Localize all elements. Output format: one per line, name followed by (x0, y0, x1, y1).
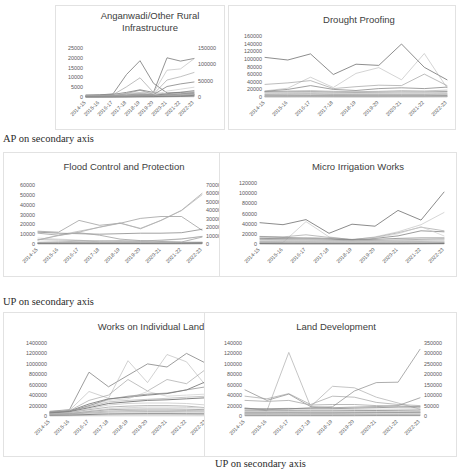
plot-area-anganwadi: Anganwadi/Other Rural Infrastructure 050… (56, 6, 224, 129)
x-axis-tick-label: 2019-20 (358, 246, 376, 264)
x-axis-tick-label: 2018-19 (315, 418, 333, 436)
x-axis-tick-label: 2022-23 (185, 246, 203, 264)
series-line (50, 353, 206, 411)
series-line (265, 74, 447, 89)
x-axis-tick-label: 2015-16 (52, 418, 70, 436)
plot-area-micro: Micro Irrigation Works 02000040000600008… (220, 153, 456, 276)
svg-text:50000: 50000 (424, 403, 439, 409)
svg-text:200000: 200000 (424, 371, 442, 377)
svg-text:100000: 100000 (244, 56, 262, 62)
svg-text:20000: 20000 (20, 221, 35, 227)
chart-svg-micro: 0200004000060000800001000001200002014-15… (220, 153, 458, 278)
x-axis-tick-label: 2019-20 (337, 418, 355, 436)
x-axis-tick-label: 2016-17 (272, 418, 290, 436)
x-axis-tick-label: 2018-19 (339, 99, 357, 117)
svg-text:600000: 600000 (29, 382, 47, 388)
svg-text:40000: 40000 (227, 392, 242, 398)
plot-area-flood: Flood Control and Protection 01000020000… (4, 153, 234, 276)
svg-text:40000: 40000 (247, 79, 262, 85)
svg-text:20000: 20000 (247, 86, 262, 92)
svg-text:0: 0 (424, 413, 427, 419)
svg-text:300000: 300000 (424, 350, 442, 356)
x-axis-tick-label: 2019-20 (130, 418, 148, 436)
svg-text:50000: 50000 (20, 192, 35, 198)
svg-text:100000: 100000 (198, 61, 216, 67)
chart-panel-individual-land: Works on Individual Land 020000040000060… (3, 312, 235, 457)
svg-text:20000: 20000 (68, 55, 83, 61)
chart-svg-drought: 0200004000060000800001000001200001400001… (229, 6, 457, 131)
svg-text:400000: 400000 (29, 392, 47, 398)
x-axis-tick-label: 2021-22 (381, 418, 399, 436)
svg-text:100000: 100000 (239, 190, 257, 196)
svg-text:150000: 150000 (198, 45, 216, 51)
x-axis-tick-label: 2016-17 (289, 246, 307, 264)
x-axis-tick-label: 2018-19 (103, 246, 121, 264)
svg-text:150000: 150000 (424, 382, 442, 388)
chart-svg-land-development: 0200004000060000800001000001200001400000… (205, 313, 458, 458)
x-axis-tick-label: 2020-21 (381, 246, 399, 264)
x-axis-tick-label: 2018-19 (111, 418, 129, 436)
x-axis-tick-label: 2015-16 (250, 418, 268, 436)
svg-text:60000: 60000 (242, 211, 257, 217)
chart-panel-micro: Micro Irrigation Works 02000040000600008… (219, 152, 457, 277)
figure-root: Anganwadi/Other Rural Infrastructure 050… (0, 0, 460, 472)
plot-area-drought: Drought Proofing 02000040000600008000010… (229, 6, 455, 129)
x-axis-tick-label: 2014-15 (248, 99, 266, 117)
series-line (245, 411, 420, 412)
series-line (245, 410, 420, 411)
caption-row3: UP on secondary axis (215, 458, 306, 469)
x-axis-tick-label: 2020-21 (359, 418, 377, 436)
svg-text:10000: 10000 (20, 231, 35, 237)
svg-text:0: 0 (198, 94, 201, 100)
chart-panel-land-development: Land Development 02000040000600008000010… (204, 312, 457, 457)
series-line (245, 349, 420, 409)
x-axis-tick-label: 2022-23 (427, 246, 445, 264)
x-axis-tick-label: 2014-15 (33, 418, 51, 436)
x-axis-tick-label: 2020-21 (384, 99, 402, 117)
x-axis-tick-label: 2022-23 (403, 418, 421, 436)
svg-text:160000: 160000 (244, 33, 262, 39)
x-axis-tick-label: 2022-23 (177, 99, 195, 117)
x-axis-tick-label: 2017-18 (312, 246, 330, 264)
x-axis-tick-label: 2017-18 (82, 246, 100, 264)
svg-text:100000: 100000 (224, 361, 242, 367)
x-axis-tick-label: 2016-17 (72, 418, 90, 436)
svg-text:20000: 20000 (242, 231, 257, 237)
x-axis-tick-label: 2015-16 (266, 246, 284, 264)
x-axis-tick-label: 2021-22 (407, 99, 425, 117)
svg-text:15000: 15000 (68, 65, 83, 71)
svg-text:20000: 20000 (227, 403, 242, 409)
svg-text:40000: 40000 (20, 202, 35, 208)
svg-text:120000: 120000 (239, 180, 257, 186)
x-axis-tick-label: 2015-16 (271, 99, 289, 117)
x-axis-tick-label: 2015-16 (41, 246, 59, 264)
x-axis-tick-label: 2014-15 (243, 246, 261, 264)
x-axis-tick-label: 2020-21 (144, 246, 162, 264)
x-axis-tick-label: 2021-22 (164, 246, 182, 264)
caption-row2: UP on secondary axis (3, 296, 94, 307)
svg-text:200000: 200000 (29, 403, 47, 409)
chart-svg-individual-land: 0200000400000600000800000100000012000001… (4, 313, 236, 458)
x-axis-tick-label: 2014-15 (21, 246, 39, 264)
x-axis-tick-label: 2016-17 (293, 99, 311, 117)
x-axis-tick-label: 2021-22 (169, 418, 187, 436)
svg-text:60000: 60000 (20, 182, 35, 188)
svg-text:80000: 80000 (247, 64, 262, 70)
chart-panel-anganwadi: Anganwadi/Other Rural Infrastructure 050… (55, 5, 225, 130)
svg-text:1400000: 1400000 (26, 340, 47, 346)
x-axis-tick-label: 2019-20 (362, 99, 380, 117)
svg-text:250000: 250000 (424, 361, 442, 367)
series-line (260, 192, 444, 233)
svg-text:25000: 25000 (68, 45, 83, 51)
svg-text:60000: 60000 (227, 382, 242, 388)
svg-text:80000: 80000 (242, 200, 257, 206)
svg-text:5000: 5000 (71, 84, 83, 90)
chart-svg-flood: 0100002000030000400005000060000010000200… (4, 153, 236, 278)
chart-svg-anganwadi: 0500010000150002000025000050000100000150… (56, 6, 226, 131)
svg-text:1000000: 1000000 (26, 361, 47, 367)
x-axis-tick-label: 2021-22 (404, 246, 422, 264)
svg-text:50000: 50000 (198, 78, 213, 84)
svg-text:80000: 80000 (227, 371, 242, 377)
x-axis-tick-label: 2014-15 (228, 418, 246, 436)
svg-text:120000: 120000 (224, 350, 242, 356)
